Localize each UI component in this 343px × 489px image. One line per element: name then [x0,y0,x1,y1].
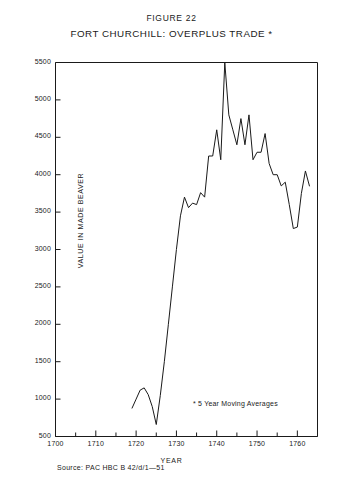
y-axis-label: VALUE IN MADE BEAVER [77,156,84,286]
x-tick-label: 1700 [36,440,76,447]
plot-frame [56,63,318,437]
source-note: Source: PAC HBC B 42/d/1—51 [57,464,165,471]
x-axis-label: YEAR [0,457,343,464]
chart-footnote: * 5 Year Moving Averages [193,400,278,407]
plot-area: VALUE IN MADE BEAVER [55,62,318,437]
x-tick-label: 1710 [76,440,116,447]
data-series-line [132,63,309,425]
x-tick-label: 1760 [277,440,317,447]
x-tick-label: 1740 [197,440,237,447]
x-tick-label: 1730 [156,440,196,447]
x-axis-ticks [56,431,318,437]
figure-container: FIGURE 22 FORT CHURCHILL: OVERPLUS TRADE… [0,0,343,489]
x-tick-label: 1720 [116,440,156,447]
x-tick-label: 1750 [237,440,277,447]
y-axis-ticks [56,63,61,437]
chart-svg [55,62,318,437]
